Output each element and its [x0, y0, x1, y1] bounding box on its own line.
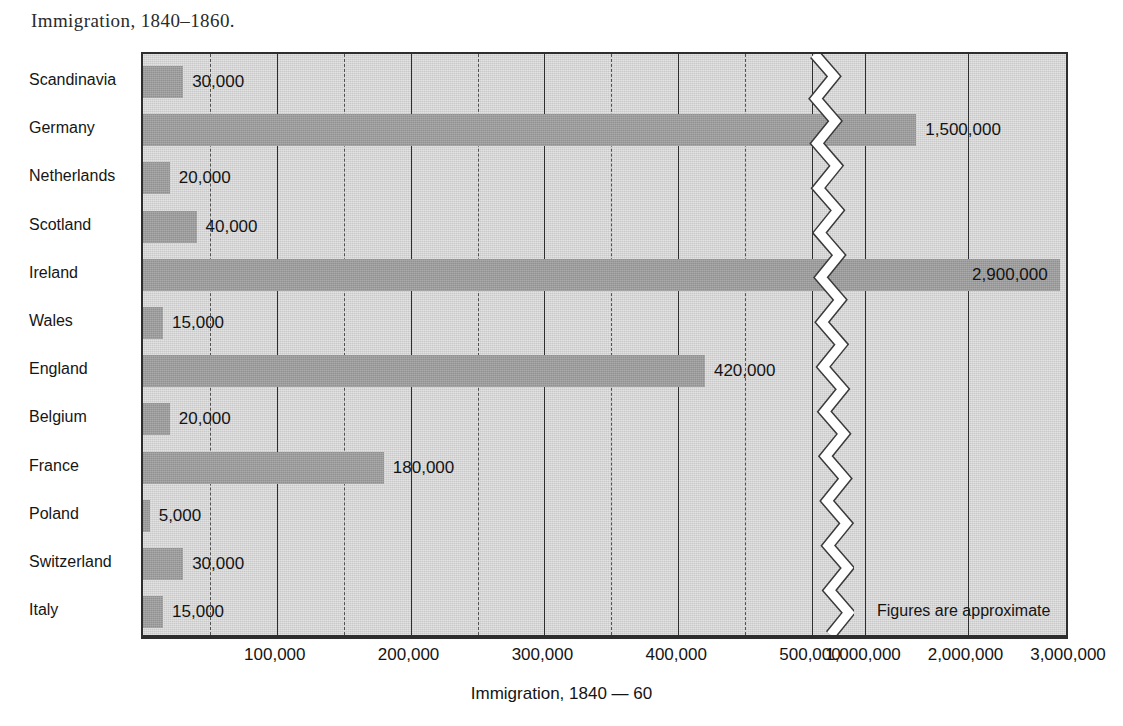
bar: [143, 596, 163, 628]
x-tick-label: 1,000,000: [825, 645, 901, 665]
bar: [143, 114, 916, 146]
x-tick-label: 400,000: [645, 645, 706, 665]
x-tick-label: 3,000,000: [1030, 645, 1106, 665]
bar-row: 2,900,000: [143, 259, 1066, 291]
bar-value-label: 30,000: [192, 548, 244, 580]
bar-row: 20,000: [143, 162, 1066, 194]
bar-row: 40,000: [143, 211, 1066, 243]
x-axis-title: Immigration, 1840 — 60: [0, 684, 1123, 704]
category-label: France: [0, 450, 133, 482]
bar-row: 30,000: [143, 548, 1066, 580]
x-tick-label: 2,000,000: [928, 645, 1004, 665]
category-label: Switzerland: [0, 546, 133, 578]
approximate-note: Figures are approximate: [877, 602, 1050, 620]
bar-row: 15,000: [143, 307, 1066, 339]
bar-value-label: 15,000: [172, 596, 224, 628]
bar-texture: [143, 307, 163, 339]
bar-texture: [143, 596, 163, 628]
bar-row: 420,000: [143, 355, 1066, 387]
category-label: Scotland: [0, 209, 133, 241]
bar-value-label: 180,000: [393, 452, 454, 484]
bar-value-label: 20,000: [179, 403, 231, 435]
category-label: Netherlands: [0, 160, 133, 192]
bar: [143, 307, 163, 339]
bar-row: 30,000: [143, 66, 1066, 98]
category-label: Germany: [0, 112, 133, 144]
bar-texture: [143, 403, 170, 435]
bar: [143, 548, 183, 580]
x-axis-line: [141, 637, 1068, 639]
chart-title: Immigration, 1840–1860.: [31, 10, 235, 32]
bar-value-label: 30,000: [192, 66, 244, 98]
bar-texture: [143, 66, 183, 98]
bar: [143, 452, 384, 484]
bar-texture: [143, 548, 183, 580]
bar-value-label: 2,900,000: [972, 259, 1048, 291]
bar-texture: [143, 500, 150, 532]
bar-row: 20,000: [143, 403, 1066, 435]
plot-area: 30,0001,500,00020,00040,0002,900,00015,0…: [141, 52, 1068, 637]
bar: [143, 403, 170, 435]
x-tick-label: 300,000: [512, 645, 573, 665]
bar-value-label: 420,000: [714, 355, 775, 387]
bar-texture: [143, 114, 916, 146]
bar: [143, 211, 197, 243]
bar-texture: [143, 259, 1060, 291]
category-label: Poland: [0, 498, 133, 530]
category-label: Ireland: [0, 257, 133, 289]
bar-value-label: 20,000: [179, 162, 231, 194]
bar: [143, 355, 705, 387]
category-label: Belgium: [0, 401, 133, 433]
bar-texture: [143, 162, 170, 194]
bar-value-label: 1,500,000: [925, 114, 1001, 146]
bar-row: 5,000: [143, 500, 1066, 532]
bar-value-label: 15,000: [172, 307, 224, 339]
bar-value-label: 5,000: [159, 500, 202, 532]
bar: [143, 500, 150, 532]
x-tick-label: 200,000: [378, 645, 439, 665]
bar: [143, 66, 183, 98]
category-axis: ScandinaviaGermanyNetherlandsScotlandIre…: [0, 52, 133, 637]
bar-row: 1,500,000: [143, 114, 1066, 146]
bar: [143, 259, 1060, 291]
category-label: Italy: [0, 594, 133, 626]
bar-value-label: 40,000: [206, 211, 258, 243]
bar-texture: [143, 211, 197, 243]
bar: [143, 162, 170, 194]
bar-texture: [143, 452, 384, 484]
category-label: England: [0, 353, 133, 385]
chart-figure: Immigration, 1840–1860. ScandinaviaGerma…: [0, 0, 1123, 726]
bar-texture: [143, 355, 705, 387]
category-label: Scandinavia: [0, 64, 133, 96]
category-label: Wales: [0, 305, 133, 337]
bar-row: 180,000: [143, 452, 1066, 484]
x-tick-label: 100,000: [244, 645, 305, 665]
